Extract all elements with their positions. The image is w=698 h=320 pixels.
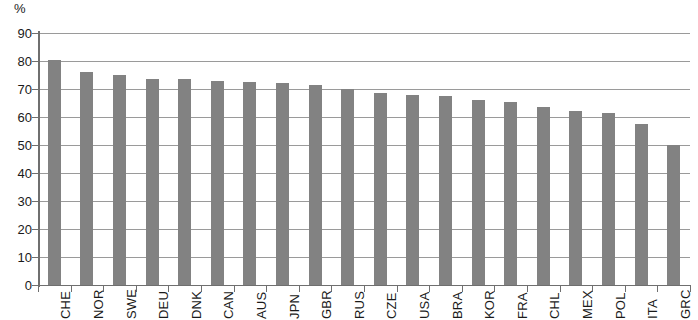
x-axis-tick — [527, 285, 528, 292]
y-axis-unit-label: % — [14, 2, 26, 15]
bar — [374, 93, 387, 285]
bar — [48, 60, 61, 285]
bar — [569, 111, 582, 285]
x-axis-label-cze: CZE — [385, 292, 398, 319]
bar — [211, 81, 224, 285]
x-axis-tick — [625, 285, 626, 292]
bar — [406, 95, 419, 285]
x-axis-label-mex: MEX — [581, 290, 594, 319]
x-axis-tick — [397, 285, 398, 292]
bar — [309, 85, 322, 285]
y-axis-tick-label: 60 — [2, 111, 32, 124]
bars-container — [38, 33, 690, 285]
y-axis-tick-labels: 9080706050403020100 — [0, 33, 32, 285]
bar — [243, 82, 256, 285]
bar — [439, 96, 452, 285]
x-axis-label-deu: DEU — [157, 291, 170, 319]
x-axis-label-can: CAN — [222, 291, 235, 319]
x-axis-label-grc: GRC — [679, 290, 692, 320]
x-axis-label-pol: POL — [614, 292, 627, 319]
y-axis-tick-label: 90 — [2, 27, 32, 40]
x-axis-label-gbr: GBR — [320, 290, 333, 319]
x-axis-label-che: CHE — [59, 291, 72, 319]
bar — [635, 124, 648, 285]
x-axis-tick — [560, 285, 561, 292]
x-axis-tick — [299, 285, 300, 292]
y-axis-tick-label: 20 — [2, 223, 32, 236]
bar — [80, 72, 93, 285]
bar — [146, 79, 159, 285]
x-axis-label-jpn: JPN — [288, 294, 301, 319]
x-axis-label-ita: ITA — [646, 299, 659, 319]
y-axis-tick-label: 80 — [2, 55, 32, 68]
bar — [178, 79, 191, 285]
bar — [504, 102, 517, 285]
bar — [341, 89, 354, 285]
x-axis-label-bra: BRA — [451, 292, 464, 319]
x-axis-label-nor: NOR — [92, 290, 105, 320]
x-axis-label-aus: AUS — [255, 292, 268, 319]
x-axis-label-rus: RUS — [353, 291, 366, 319]
x-axis-label-kor: KOR — [483, 290, 496, 319]
bar — [472, 100, 485, 285]
bar — [602, 113, 615, 285]
x-axis-label-swe: SWE — [125, 289, 138, 319]
x-axis-tick — [38, 285, 39, 292]
y-axis-tick-label: 0 — [2, 279, 32, 292]
bar — [113, 75, 126, 285]
x-axis-label-fra: FRA — [516, 292, 529, 319]
x-axis-tick — [657, 285, 658, 292]
y-axis-tick-label: 10 — [2, 251, 32, 264]
y-axis-tick-label: 30 — [2, 195, 32, 208]
x-axis-label-usa: USA — [418, 292, 431, 319]
bar-chart: % 9080706050403020100 CHENORSWEDEUDNKCAN… — [0, 0, 698, 320]
bar — [667, 145, 680, 285]
x-axis-label-chl: CHL — [548, 292, 561, 319]
bar — [537, 107, 550, 285]
x-axis-label-dnk: DNK — [190, 291, 203, 319]
y-axis-tick-label: 50 — [2, 139, 32, 152]
x-axis-category-labels: CHENORSWEDEUDNKCANAUSJPNGBRRUSCZEUSABRAK… — [38, 293, 690, 320]
y-axis-tick-label: 40 — [2, 167, 32, 180]
bar — [276, 83, 289, 285]
y-axis-tick-label: 70 — [2, 83, 32, 96]
